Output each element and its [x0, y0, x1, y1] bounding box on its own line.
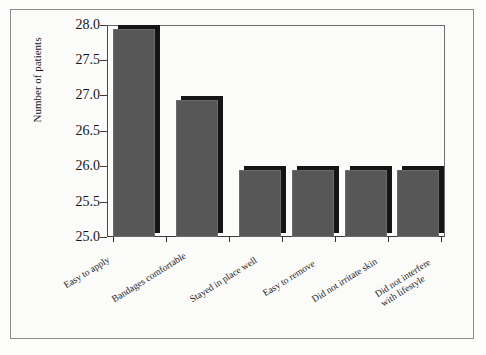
bar-shadow-right: [439, 166, 444, 233]
y-tick-mark: [100, 25, 107, 26]
bar-stayed-in-place-well[interactable]: [239, 166, 286, 237]
y-axis-title: Number of patients: [31, 23, 43, 137]
bar-shadow-right: [155, 25, 160, 233]
y-tick-mark: [100, 166, 107, 167]
x-tick-mark: [282, 237, 283, 242]
x-tick-mark: [335, 237, 336, 242]
y-tick-label: 26.0: [54, 159, 100, 173]
bar-shadow-right: [334, 166, 339, 233]
bar-body: [176, 100, 218, 237]
y-tick-label: 26.5: [54, 124, 100, 138]
bar-shadow-right: [218, 96, 223, 233]
y-tick-mark: [100, 237, 107, 238]
y-tick-label: 27.0: [54, 88, 100, 102]
bar-did-not-irritate-skin[interactable]: [345, 166, 392, 237]
bar-body: [397, 170, 439, 237]
x-tick-mark: [229, 237, 230, 242]
bar-shadow-right: [281, 166, 286, 233]
y-tick-mark: [100, 202, 107, 203]
y-tick-label: 25.0: [54, 230, 100, 244]
y-tick-label: 27.5: [54, 53, 100, 67]
y-axis-tick-labels: 28.0 27.5 27.0 26.5 26.0 25.5 25.0: [52, 0, 100, 355]
bar-easy-to-apply[interactable]: [113, 25, 160, 237]
x-tick-mark: [441, 237, 442, 242]
y-tick-mark: [100, 95, 107, 96]
y-tick-mark: [100, 131, 107, 132]
y-tick-label: 25.5: [54, 195, 100, 209]
bar-body: [345, 170, 387, 237]
x-tick-mark: [113, 237, 114, 242]
bar-did-not-interfere-with-lifestyle[interactable]: [397, 166, 444, 237]
bar-shadow-right: [387, 166, 392, 233]
x-tick-mark: [166, 237, 167, 242]
bar-body: [113, 29, 155, 237]
bar-body: [239, 170, 281, 237]
bar-body: [292, 170, 334, 237]
y-tick-label: 28.0: [54, 18, 100, 32]
bar-chart-figure: Number of patients 28.0 27.5 27.0 26.5 2…: [0, 0, 486, 355]
bar-easy-to-remove[interactable]: [292, 166, 339, 237]
bar-bandages-comfortable[interactable]: [176, 96, 223, 237]
y-tick-mark: [100, 60, 107, 61]
x-tick-mark: [388, 237, 389, 242]
